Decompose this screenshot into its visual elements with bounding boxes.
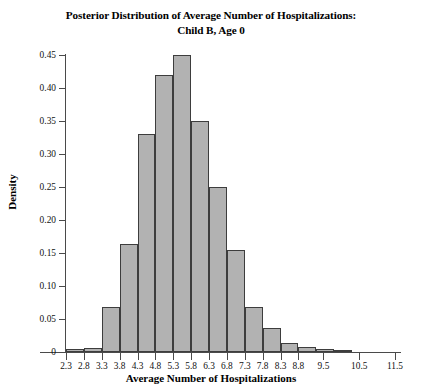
histogram-bar — [173, 55, 191, 352]
x-axis-tick — [155, 353, 156, 360]
y-axis-tick — [59, 352, 66, 353]
y-axis-tick-label: 0.40 — [0, 83, 56, 93]
y-axis-tick — [59, 319, 66, 320]
y-axis-tick — [59, 121, 66, 122]
y-axis-tick — [59, 286, 66, 287]
histogram-bar — [334, 350, 352, 352]
chart-title-line-1: Posterior Distribution of Average Number… — [66, 9, 356, 21]
x-axis-tick — [120, 353, 121, 360]
histogram-bar — [66, 349, 84, 352]
histogram-bar — [263, 328, 281, 352]
y-axis-tick — [59, 220, 66, 221]
y-axis-tick-label: 0.05 — [0, 314, 56, 324]
y-axis-tick-label: 0.15 — [0, 248, 56, 258]
histogram-chart: Posterior Distribution of Average Number… — [0, 0, 422, 390]
x-axis-tick — [323, 353, 324, 360]
histogram-bar — [155, 75, 173, 352]
histogram-bar — [316, 349, 334, 352]
x-axis-tick-label: 9.5 — [303, 361, 343, 371]
x-axis-tick — [359, 353, 360, 360]
histogram-bar — [281, 343, 299, 352]
y-axis-tick-label: 0.35 — [0, 116, 56, 126]
y-axis-tick-label: 0 — [0, 347, 56, 357]
x-axis-tick — [245, 353, 246, 360]
x-axis-tick-label: 10.5 — [339, 361, 379, 371]
x-axis-title: Average Number of Hospitalizations — [0, 372, 422, 384]
x-axis-tick — [227, 353, 228, 360]
histogram-bar — [209, 187, 227, 352]
y-axis-tick-label: 0.10 — [0, 281, 56, 291]
histogram-bar — [84, 348, 102, 352]
x-axis-tick — [102, 353, 103, 360]
y-axis-tick — [59, 187, 66, 188]
y-axis-tick — [59, 154, 66, 155]
histogram-bars — [66, 55, 395, 352]
histogram-bar — [245, 307, 263, 352]
histogram-bar — [191, 121, 209, 352]
histogram-bar — [102, 307, 120, 352]
x-axis-tick-label: 11.5 — [375, 361, 415, 371]
x-axis-tick — [84, 353, 85, 360]
x-axis-tick — [395, 353, 396, 360]
x-axis-tick — [209, 353, 210, 360]
y-axis-tick — [59, 253, 66, 254]
x-axis-tick — [263, 353, 264, 360]
x-axis-tick — [298, 353, 299, 360]
histogram-bar — [298, 347, 316, 352]
x-axis-tick — [173, 353, 174, 360]
histogram-bar — [227, 250, 245, 352]
y-axis-tick — [59, 88, 66, 89]
x-axis-tick — [281, 353, 282, 360]
chart-title: Posterior Distribution of Average Number… — [0, 8, 422, 37]
x-axis-tick — [66, 353, 67, 360]
y-axis-tick — [59, 55, 66, 56]
y-axis-title: Density — [6, 142, 18, 242]
x-axis-tick — [191, 353, 192, 360]
histogram-bar — [138, 134, 156, 352]
chart-title-line-2: Child B, Age 0 — [0, 23, 422, 38]
histogram-bar — [120, 244, 138, 352]
x-axis-tick — [138, 353, 139, 360]
y-axis-tick-label: 0.45 — [0, 50, 56, 60]
x-axis-line — [40, 352, 401, 353]
